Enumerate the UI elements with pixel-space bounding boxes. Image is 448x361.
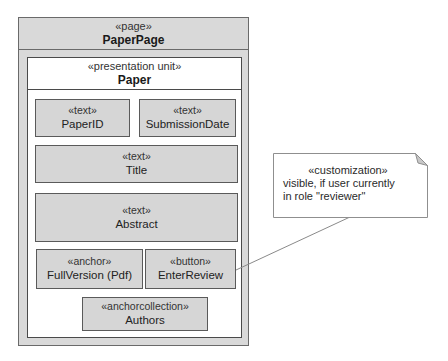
note-stereotype: «customization» xyxy=(283,164,423,177)
note-line-2: in role "reviewer" xyxy=(283,190,423,203)
note-text: «customization» visible, if user current… xyxy=(283,164,423,203)
note-connector-line xyxy=(236,217,350,270)
note-line-1: visible, if user currently xyxy=(283,177,423,190)
